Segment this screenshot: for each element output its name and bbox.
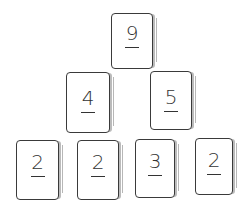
- card-bottom-4: 2: [195, 138, 233, 195]
- card-value: 4: [67, 87, 109, 109]
- underline: [31, 176, 45, 177]
- card-middle-right: 5: [150, 71, 192, 130]
- underline: [125, 47, 139, 48]
- card-bottom-2: 2: [77, 140, 119, 200]
- card-middle-left: 4: [66, 72, 110, 133]
- card-value: 2: [196, 149, 232, 171]
- card-value: 5: [151, 86, 191, 108]
- card-top: 9: [111, 13, 153, 69]
- card-value: 3: [136, 150, 174, 172]
- card-bottom-3: 3: [135, 139, 175, 198]
- card-value: 2: [17, 151, 58, 173]
- underline: [91, 176, 105, 177]
- underline: [164, 111, 178, 112]
- card-value: 9: [112, 22, 152, 44]
- underline: [207, 174, 221, 175]
- card-bottom-1: 2: [16, 140, 59, 200]
- underline: [81, 112, 95, 113]
- card-value: 2: [78, 151, 118, 173]
- underline: [148, 175, 162, 176]
